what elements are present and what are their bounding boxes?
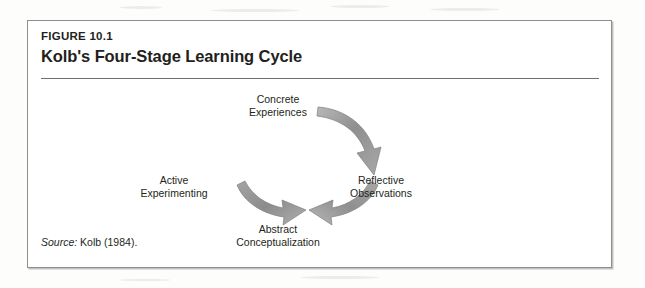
cycle-node-active: Active Experimenting	[140, 174, 207, 199]
cycle-node-abstract: Abstract Conceptualization	[236, 223, 319, 248]
figure-box: FIGURE 10.1 Kolb's Four-Stage Learning C…	[27, 20, 612, 268]
source-note: Source: Kolb (1984).	[41, 236, 137, 248]
kolb-cycle-diagram: Concrete Experiences Reflective Observat…	[41, 83, 599, 231]
cycle-node-abstract-line2: Conceptualization	[236, 235, 319, 248]
figure-title: Kolb's Four-Stage Learning Cycle	[41, 47, 302, 66]
arrow-concrete-to-reflective	[317, 107, 381, 175]
cycle-node-concrete-line1: Concrete	[249, 93, 307, 106]
scan-speck	[210, 9, 300, 12]
arrow-abstract-to-active	[237, 181, 306, 225]
cycle-node-reflective: Reflective Observations	[350, 174, 412, 199]
scan-speck	[120, 6, 162, 9]
scan-speck	[430, 8, 500, 11]
cycle-arrows-svg	[41, 83, 599, 231]
cycle-node-reflective-line2: Observations	[350, 186, 412, 199]
cycle-node-active-line1: Active	[140, 174, 207, 187]
cycle-node-active-line2: Experimenting	[140, 186, 207, 199]
cycle-node-concrete-line2: Experiences	[249, 105, 307, 118]
scan-speck	[300, 276, 380, 279]
source-citation: Kolb (1984).	[77, 236, 137, 248]
source-label: Source:	[41, 236, 77, 248]
scan-speck	[330, 5, 390, 8]
cycle-node-concrete: Concrete Experiences	[249, 93, 307, 118]
cycle-node-abstract-line1: Abstract	[236, 223, 319, 236]
title-divider	[41, 78, 599, 79]
scan-speck	[120, 279, 170, 281]
figure-number: FIGURE 10.1	[41, 30, 113, 42]
cycle-node-reflective-line1: Reflective	[350, 174, 412, 187]
